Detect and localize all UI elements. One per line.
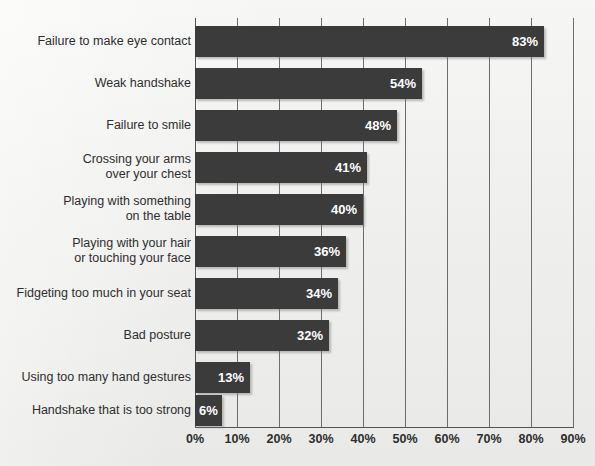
bar-failure-to-make-eye-contact[interactable]: 83%: [195, 26, 544, 57]
bar-crossing-your-arms-over-your-chest[interactable]: 41%: [195, 152, 367, 183]
bar-row: 48%: [195, 110, 573, 141]
bar-handshake-that-is-too-strong[interactable]: 6%: [195, 395, 222, 426]
category-label-failure-to-smile: Failure to smile: [0, 118, 191, 133]
category-label-fidgeting-too-much-in-your-seat: Fidgeting too much in your seat: [0, 286, 191, 301]
bar-playing-with-your-hair-or-touching-your-face[interactable]: 36%: [195, 236, 346, 267]
bar-row: 36%: [195, 236, 573, 267]
bar-value-label: 41%: [335, 152, 361, 183]
bar-value-label: 40%: [331, 194, 357, 225]
bar-row: 54%: [195, 68, 573, 99]
bar-value-label: 36%: [314, 236, 340, 267]
category-label-bad-posture: Bad posture: [0, 328, 191, 343]
category-label-playing-with-your-hair-or-touching-your-face: Playing with your hair or touching your …: [0, 236, 191, 266]
bar-fidgeting-too-much-in-your-seat[interactable]: 34%: [195, 278, 338, 309]
category-label-handshake-that-is-too-strong: Handshake that is too strong: [0, 403, 191, 418]
bar-bad-posture[interactable]: 32%: [195, 320, 329, 351]
bar-playing-with-something-on-the-table[interactable]: 40%: [195, 194, 363, 225]
category-label-crossing-your-arms-over-your-chest: Crossing your arms over your chest: [0, 152, 191, 182]
bar-value-label: 32%: [297, 320, 323, 351]
bar-row: 32%: [195, 320, 573, 351]
bar-row: 13%: [195, 362, 573, 393]
bar-failure-to-smile[interactable]: 48%: [195, 110, 397, 141]
bar-value-label: 13%: [218, 362, 244, 393]
bar-row: 83%: [195, 26, 573, 57]
bar-row: 40%: [195, 194, 573, 225]
bar-value-label: 6%: [199, 395, 218, 426]
category-label-playing-with-something-on-the-table: Playing with something on the table: [0, 194, 191, 224]
bar-row: 34%: [195, 278, 573, 309]
category-label-failure-to-make-eye-contact: Failure to make eye contact: [0, 34, 191, 49]
horizontal-bar-chart: 83% 54% 48% 41% 40% 36%: [0, 0, 595, 466]
gridline-90: [573, 18, 574, 427]
bar-weak-handshake[interactable]: 54%: [195, 68, 422, 99]
bar-value-label: 83%: [512, 26, 538, 57]
x-axis-line: [195, 427, 574, 428]
category-label-weak-handshake: Weak handshake: [0, 76, 191, 91]
plot-bars: 83% 54% 48% 41% 40% 36%: [195, 18, 573, 427]
bar-row: 6%: [195, 395, 573, 426]
bar-value-label: 54%: [390, 68, 416, 99]
category-label-using-too-many-hand-gestures: Using too many hand gestures: [0, 370, 191, 385]
bar-value-label: 34%: [306, 278, 332, 309]
bar-using-too-many-hand-gestures[interactable]: 13%: [195, 362, 250, 393]
bar-row: 41%: [195, 152, 573, 183]
x-tick-label-90: 90%: [548, 432, 595, 446]
bar-value-label: 48%: [365, 110, 391, 141]
